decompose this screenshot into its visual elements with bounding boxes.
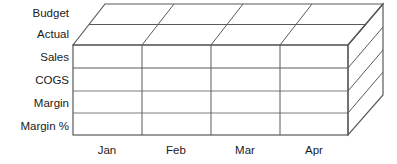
time-labels: Jan Feb Mar Apr (98, 144, 323, 156)
scenario-label-budget: Budget (33, 7, 70, 19)
scenario-label-actual: Actual (37, 28, 69, 40)
time-label-jan: Jan (98, 144, 117, 156)
time-label-feb: Feb (166, 144, 186, 156)
measure-label-margin: Margin (34, 97, 69, 109)
time-label-apr: Apr (305, 144, 323, 156)
time-label-mar: Mar (235, 144, 255, 156)
measure-labels: Budget Actual Sales COGS Margin Margin % (20, 7, 69, 132)
measure-label-sales: Sales (40, 51, 69, 63)
cube-diagram: Budget Actual Sales COGS Margin Margin %… (0, 0, 397, 164)
measure-label-margin-percent: Margin % (20, 120, 69, 132)
measure-label-cogs: COGS (35, 74, 69, 86)
